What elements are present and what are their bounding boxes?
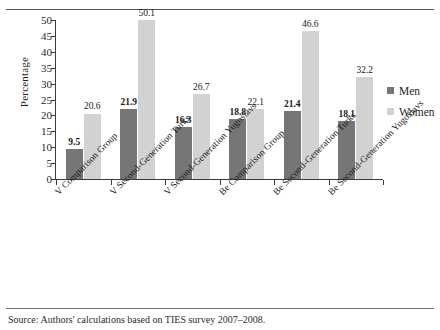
y-tick-label: 5 bbox=[0, 158, 52, 169]
y-tick-label: 10 bbox=[0, 142, 52, 153]
chart-legend: MenWomen bbox=[387, 80, 440, 122]
y-tick-label: 40 bbox=[0, 46, 52, 57]
legend-swatch-icon bbox=[387, 108, 394, 115]
y-tick-label: 25 bbox=[0, 94, 52, 105]
top-divider bbox=[6, 9, 434, 10]
y-tick-label: 50 bbox=[0, 15, 52, 26]
bars-container: 9.520.621.950.116.326.718.822.121.446.61… bbox=[56, 20, 383, 179]
legend-label: Women bbox=[399, 106, 434, 118]
bar-women-1 bbox=[138, 20, 155, 179]
bar-women-0 bbox=[84, 114, 101, 180]
x-tick-mark bbox=[329, 180, 330, 185]
bar-women-3 bbox=[247, 109, 264, 179]
legend-item-women: Women bbox=[387, 101, 440, 122]
bar-women-4 bbox=[302, 31, 319, 179]
x-tick-mark bbox=[220, 180, 221, 185]
x-tick-mark bbox=[274, 180, 275, 185]
bar-men-2 bbox=[175, 127, 192, 179]
bar-men-3 bbox=[229, 119, 246, 179]
bar-value-label: 32.2 bbox=[350, 66, 379, 76]
bottom-divider bbox=[6, 308, 434, 309]
bar-men-0 bbox=[66, 149, 83, 179]
bar-men-5 bbox=[338, 121, 355, 179]
bar-women-2 bbox=[193, 94, 210, 179]
y-tick-label: 0 bbox=[0, 174, 52, 185]
y-tick-label: 45 bbox=[0, 30, 52, 41]
chart-figure: Percentage 05101520253035404550 9.520.62… bbox=[0, 14, 440, 304]
y-tick-label: 35 bbox=[0, 62, 52, 73]
y-tick-label: 20 bbox=[0, 110, 52, 121]
x-tick-mark bbox=[165, 180, 166, 185]
x-tick-mark bbox=[111, 180, 112, 185]
y-tick-label: 15 bbox=[0, 126, 52, 137]
bar-value-label: 22.1 bbox=[241, 98, 270, 108]
source-note: Source: Authors' calculations based on T… bbox=[8, 314, 265, 325]
legend-item-men: Men bbox=[387, 80, 440, 101]
bar-value-label: 20.6 bbox=[78, 102, 107, 112]
bar-men-4 bbox=[284, 111, 301, 179]
bar-women-5 bbox=[356, 77, 373, 179]
bar-value-label: 46.6 bbox=[296, 20, 325, 30]
bar-men-1 bbox=[120, 109, 137, 179]
x-tick-mark bbox=[383, 180, 384, 185]
figure-page: Percentage 05101520253035404550 9.520.62… bbox=[0, 0, 440, 330]
bar-value-label: 26.7 bbox=[187, 83, 216, 93]
legend-label: Men bbox=[399, 85, 420, 97]
legend-swatch-icon bbox=[387, 87, 394, 94]
bar-value-label: 50.1 bbox=[132, 9, 161, 19]
x-tick-mark bbox=[56, 180, 57, 185]
y-tick-label: 30 bbox=[0, 78, 52, 89]
